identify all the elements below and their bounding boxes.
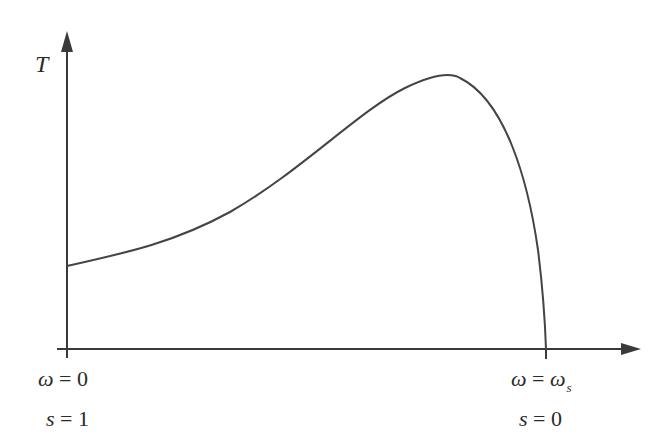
equals-sign: = <box>59 366 71 391</box>
x-label-omega-sync: ω = ωs <box>511 368 571 390</box>
x-label-slip-zero: s = 0 <box>519 408 562 430</box>
slip-value: 1 <box>78 406 89 431</box>
equals-sign: = <box>532 366 544 391</box>
equals-sign: = <box>533 406 545 431</box>
x-axis-arrow-icon <box>621 343 641 355</box>
y-axis-label-text: T <box>35 51 48 77</box>
slip-symbol: s <box>46 406 55 431</box>
omega-symbol: ω <box>38 366 54 391</box>
y-axis-arrow-icon <box>61 31 73 52</box>
omega-symbol: ω <box>511 366 527 391</box>
slip-value: 0 <box>551 406 562 431</box>
equals-sign: = <box>60 406 72 431</box>
omega-value: 0 <box>77 366 88 391</box>
omega-sync-symbol: ω <box>550 366 566 391</box>
torque-curve <box>67 75 546 349</box>
x-label-omega-zero: ω = 0 <box>38 368 88 390</box>
x-label-slip-one: s = 1 <box>46 408 89 430</box>
slip-symbol: s <box>519 406 528 431</box>
y-axis-label: T <box>35 52 48 76</box>
omega-sync-subscript: s <box>567 380 572 395</box>
